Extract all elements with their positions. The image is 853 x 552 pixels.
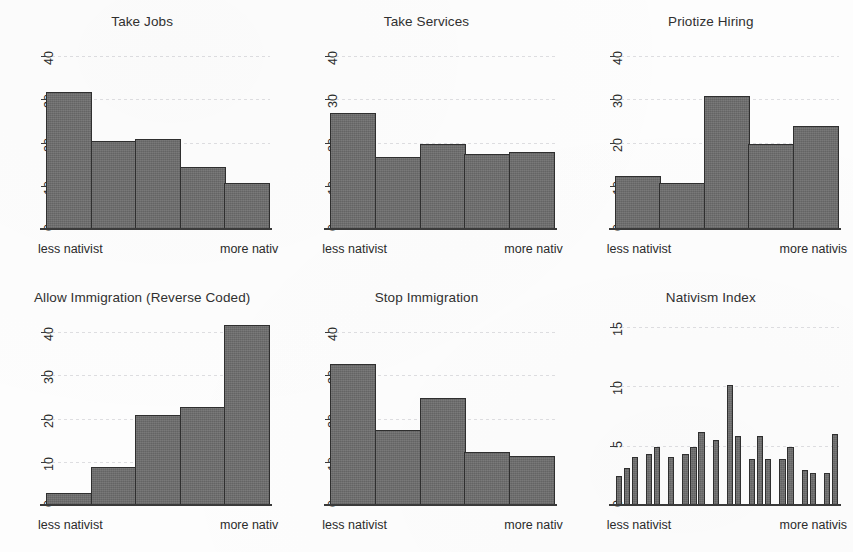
bar bbox=[330, 113, 376, 230]
chart-panel-5: Stop Immigration010203040less nativistmo… bbox=[284, 276, 568, 552]
bar bbox=[330, 364, 376, 507]
bar-series bbox=[46, 40, 270, 230]
bar bbox=[91, 467, 137, 506]
chart-panel-2: Take Services010203040less nativistmore … bbox=[284, 0, 568, 276]
bar-series bbox=[615, 316, 839, 506]
x-label-left: less nativist bbox=[38, 518, 103, 532]
panel-title: Allow Immigration (Reverse Coded) bbox=[0, 290, 284, 305]
bar bbox=[420, 398, 466, 506]
bar bbox=[180, 167, 226, 230]
bar bbox=[659, 183, 705, 231]
x-axis-line bbox=[609, 504, 841, 506]
figure-page: Take Jobs010203040less nativistmore nati… bbox=[0, 0, 853, 552]
bar bbox=[757, 436, 763, 506]
x-axis-line bbox=[609, 228, 841, 230]
panel-title: Nativism Index bbox=[569, 290, 853, 305]
plot-area: 051015 bbox=[615, 316, 839, 506]
bar bbox=[464, 154, 510, 230]
bar bbox=[779, 459, 785, 507]
bar bbox=[224, 325, 270, 506]
bar bbox=[375, 430, 421, 506]
x-label-right: more nativ bbox=[220, 242, 278, 256]
bar bbox=[616, 476, 622, 506]
bar bbox=[224, 183, 270, 231]
bar bbox=[748, 144, 794, 230]
bar bbox=[46, 92, 92, 230]
panel-title: Priotize Hiring bbox=[569, 14, 853, 29]
bar bbox=[802, 470, 808, 506]
bar bbox=[824, 473, 830, 506]
y-axis: 010203040 bbox=[6, 316, 46, 506]
bar bbox=[654, 447, 660, 506]
panel-title: Stop Immigration bbox=[284, 290, 568, 305]
x-axis-line bbox=[40, 504, 272, 506]
bar-series bbox=[330, 316, 554, 506]
x-label-left: less nativist bbox=[322, 518, 387, 532]
bar bbox=[420, 144, 466, 230]
x-axis-line bbox=[40, 228, 272, 230]
bar bbox=[91, 141, 137, 230]
panel-grid: Take Jobs010203040less nativistmore nati… bbox=[0, 0, 853, 552]
bar bbox=[698, 432, 704, 506]
x-label-right: more nativis bbox=[780, 518, 847, 532]
panel-title: Take Jobs bbox=[0, 14, 284, 29]
bar bbox=[713, 440, 719, 507]
bar bbox=[509, 456, 555, 506]
bar-series bbox=[615, 40, 839, 230]
bar bbox=[180, 407, 226, 506]
x-axis-labels: less nativistmore nativ bbox=[38, 518, 278, 532]
y-axis: 051015 bbox=[575, 316, 615, 506]
y-axis: 010203040 bbox=[575, 40, 615, 230]
x-label-right: more nativ bbox=[504, 518, 562, 532]
x-label-left: less nativist bbox=[607, 242, 672, 256]
bar bbox=[464, 452, 510, 506]
bar bbox=[749, 459, 755, 507]
x-axis-line bbox=[324, 228, 556, 230]
bar bbox=[832, 434, 838, 506]
plot-area: 010203040 bbox=[46, 40, 270, 230]
bar bbox=[704, 96, 750, 230]
bar bbox=[668, 457, 674, 506]
bar bbox=[624, 468, 630, 506]
bar bbox=[615, 176, 661, 230]
x-axis-labels: less nativistmore nativ bbox=[322, 518, 562, 532]
bar bbox=[509, 152, 555, 230]
bar bbox=[135, 139, 181, 230]
bar bbox=[690, 447, 696, 506]
bar-series bbox=[46, 316, 270, 506]
bar bbox=[735, 436, 741, 506]
chart-panel-4: Allow Immigration (Reverse Coded)0102030… bbox=[0, 276, 284, 552]
bar bbox=[787, 447, 793, 506]
x-axis-labels: less nativistmore nativis bbox=[607, 242, 847, 256]
x-label-right: more nativ bbox=[504, 242, 562, 256]
bar bbox=[810, 473, 816, 506]
y-axis: 010203040 bbox=[290, 316, 330, 506]
y-axis: 010203040 bbox=[6, 40, 46, 230]
bar bbox=[632, 457, 638, 506]
chart-panel-6: Nativism Index051015less nativistmore na… bbox=[569, 276, 853, 552]
y-axis: 010203040 bbox=[290, 40, 330, 230]
x-axis-line bbox=[324, 504, 556, 506]
bar bbox=[765, 459, 771, 507]
panel-title: Take Services bbox=[284, 14, 568, 29]
x-axis-labels: less nativistmore nativis bbox=[607, 518, 847, 532]
x-axis-labels: less nativistmore nativ bbox=[322, 242, 562, 256]
bar bbox=[793, 126, 839, 230]
plot-area: 010203040 bbox=[615, 40, 839, 230]
chart-panel-3: Priotize Hiring010203040less nativistmor… bbox=[569, 0, 853, 276]
x-label-left: less nativist bbox=[322, 242, 387, 256]
x-axis-labels: less nativistmore nativ bbox=[38, 242, 278, 256]
bar bbox=[646, 454, 652, 506]
plot-area: 010203040 bbox=[330, 40, 554, 230]
x-label-right: more nativ bbox=[220, 518, 278, 532]
plot-area: 010203040 bbox=[46, 316, 270, 506]
bar bbox=[682, 454, 688, 506]
x-label-left: less nativist bbox=[38, 242, 103, 256]
x-label-right: more nativis bbox=[780, 242, 847, 256]
x-label-left: less nativist bbox=[607, 518, 672, 532]
chart-panel-1: Take Jobs010203040less nativistmore nati… bbox=[0, 0, 284, 276]
plot-area: 010203040 bbox=[330, 316, 554, 506]
bar bbox=[727, 385, 733, 506]
bar bbox=[135, 415, 181, 506]
bar-series bbox=[330, 40, 554, 230]
